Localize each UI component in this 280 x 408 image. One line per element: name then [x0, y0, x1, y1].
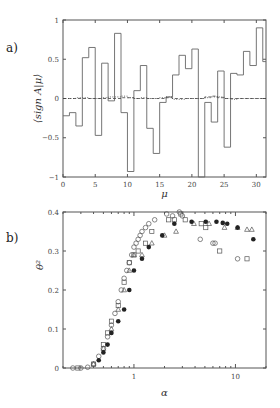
data-point-circle-filled	[220, 221, 225, 226]
y-tick-label: 0.4	[48, 209, 60, 217]
data-point-circle-filled	[122, 307, 127, 312]
data-point-circle-filled	[214, 219, 219, 224]
panel-a-label: a)	[6, 41, 18, 55]
data-point-circle-open	[113, 311, 118, 316]
data-point-circle-filled	[132, 268, 137, 273]
y-tick-label: −0.5	[42, 134, 59, 142]
panel-b-label: b)	[6, 231, 18, 245]
data-point-square-open	[218, 249, 222, 253]
y-axis-label: ⟨sign A|μ⟩	[32, 74, 44, 123]
data-point-circle-open	[140, 229, 145, 234]
data-point-circle-open	[146, 221, 151, 226]
data-point-circle-open	[143, 225, 148, 230]
data-point-circle-open	[235, 257, 240, 262]
x-tick-label: 1	[132, 373, 136, 381]
data-point-square-open	[204, 226, 208, 230]
data-point-circle-filled	[251, 237, 256, 242]
data-point-triangle-open	[149, 241, 154, 245]
figure: 051015202530−1−0.500.51μ⟨sign A|μ⟩ 11000…	[0, 0, 280, 408]
data-point-square-open	[167, 218, 171, 222]
data-point-circle-filled	[116, 319, 121, 324]
data-point-circle-filled	[101, 350, 106, 355]
data-point-circle-filled	[235, 225, 240, 230]
data-point-square-open	[150, 229, 154, 233]
y-tick-label: 0.2	[48, 287, 59, 295]
data-point-triangle-open	[249, 227, 254, 231]
x-tick-label: 20	[187, 181, 196, 189]
y-tick-label: 0.3	[48, 248, 59, 256]
data-point-square-open	[199, 222, 203, 226]
data-point-circle-filled	[203, 219, 208, 224]
data-point-circle-filled	[146, 245, 151, 250]
x-tick-label: 5	[93, 181, 97, 189]
y-tick-label: 0.1	[48, 326, 59, 334]
data-point-circle-open	[127, 260, 132, 265]
data-point-square-open	[183, 218, 187, 222]
data-point-square-open	[143, 241, 147, 245]
series-solid-line	[63, 28, 266, 177]
y-tick-label: 0	[55, 365, 59, 373]
x-tick-label: 30	[252, 181, 261, 189]
data-point-circle-filled	[160, 233, 165, 238]
data-point-circle-filled	[109, 331, 114, 336]
x-tick-label: 10	[231, 373, 240, 381]
data-point-circle-filled	[140, 257, 145, 262]
panel-b: 11000.10.20.30.4αθ²	[34, 209, 266, 399]
y-tick-label: 1	[55, 17, 59, 25]
data-point-circle-open	[152, 218, 157, 223]
data-point-square-open	[245, 257, 249, 261]
data-point-square-open	[136, 249, 140, 253]
data-point-circle-filled	[225, 221, 230, 226]
panel-a: 051015202530−1−0.500.51μ⟨sign A|μ⟩	[32, 17, 266, 200]
data-point-circle-filled	[189, 219, 194, 224]
data-point-circle-filled	[127, 288, 132, 293]
y-tick-label: −1	[49, 174, 59, 182]
data-point-circle-open	[198, 237, 203, 242]
data-point-triangle-open	[245, 227, 250, 231]
x-axis-label: μ	[161, 188, 168, 199]
data-point-circle-open	[85, 365, 90, 370]
x-axis-label: α	[161, 387, 168, 398]
data-point-triangle-open	[174, 229, 179, 233]
data-point-circle-filled	[172, 221, 177, 226]
x-tick-label: 0	[61, 181, 65, 189]
y-tick-label: 0.5	[48, 56, 59, 64]
data-point-circle-filled	[96, 358, 101, 363]
y-axis-label: θ²	[34, 260, 45, 270]
data-point-circle-filled	[105, 342, 110, 347]
x-tick-label: 25	[220, 181, 229, 189]
y-tick-label: 0	[55, 95, 59, 103]
x-tick-label: 10	[123, 181, 132, 189]
